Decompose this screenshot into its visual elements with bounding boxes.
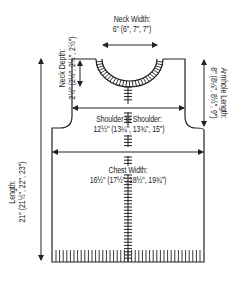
armhole-length-label: Armhole Length: 8" (8¼", 8½", 9") — [207, 60, 229, 126]
neck-width-title: Neck Width: — [99, 14, 165, 24]
armhole-length-value: 8" (8¼", 8½", 9") — [209, 60, 219, 126]
shoulder-to-shoulder-title: Shoulder to Shoulder: — [84, 114, 174, 124]
neckband-ribbing — [96, 61, 163, 87]
neck-depth-title: Neck Depth: — [57, 33, 67, 104]
sweater-schematic — [0, 0, 251, 288]
chest-width-title: Chest Width: — [82, 165, 174, 175]
chest-width-value: 16½" (17½", 18½", 19¾") — [82, 175, 174, 185]
neck-depth-label: Neck Depth: 2½" (2½", 2½", 2½") — [57, 33, 79, 104]
shoulder-to-shoulder-label: Shoulder to Shoulder: 12½" (13¼", 13¾", … — [84, 114, 174, 134]
chest-width-label: Chest Width: 16½" (17½", 18½", 19¾") — [82, 165, 174, 185]
length-title: Length: — [7, 158, 17, 227]
shoulder-to-shoulder-value: 12½" (13¼", 13¾", 15") — [84, 124, 174, 134]
armhole-length-title: Armhole Length: — [219, 60, 229, 126]
neck-width-value: 6" (6", 7", 7") — [99, 24, 165, 34]
neck-width-label: Neck Width: 6" (6", 7", 7") — [99, 14, 165, 34]
length-label: Length: 21" (21½", 22", 23") — [7, 158, 29, 227]
length-value: 21" (21½", 22", 23") — [17, 158, 27, 227]
neck-depth-value: 2½" (2½", 2½", 2½") — [67, 33, 77, 104]
